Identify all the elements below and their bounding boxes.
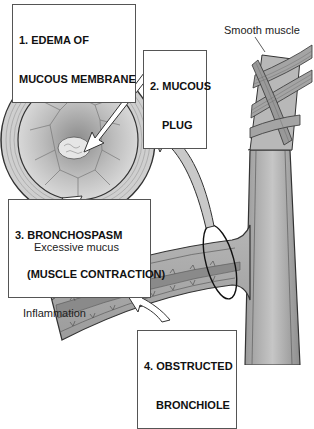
callout-mucous-plug-line1: 2. MUCOUS (150, 80, 200, 93)
callout-bronchospasm-line2: (MUSCLE CONTRACTION) (15, 268, 144, 281)
bronchus (245, 145, 300, 365)
callout-obstructed-line2: BRONCHIOLE (144, 399, 230, 412)
callout-mucous-plug-line2: PLUG (150, 119, 200, 132)
callout-mucous-plug: 2. MUCOUS PLUG (143, 50, 207, 149)
callout-edema-line1: 1. EDEMA OF (19, 34, 129, 47)
label-excessive-mucus: Excessive mucus (34, 241, 119, 253)
label-inflammation: Inflammation (23, 307, 86, 319)
smooth-muscle-bands (250, 45, 312, 150)
callout-edema: 1. EDEMA OF MUCOUS MEMBRANE (12, 4, 136, 103)
callout-obstructed-line1: 4. OBSTRUCTED (144, 360, 230, 373)
callout-edema-line2: MUCOUS MEMBRANE (19, 73, 129, 86)
callout-obstructed-bronchiole: 4. OBSTRUCTED BRONCHIOLE (137, 330, 237, 429)
label-smooth-muscle: Smooth muscle (224, 24, 300, 36)
